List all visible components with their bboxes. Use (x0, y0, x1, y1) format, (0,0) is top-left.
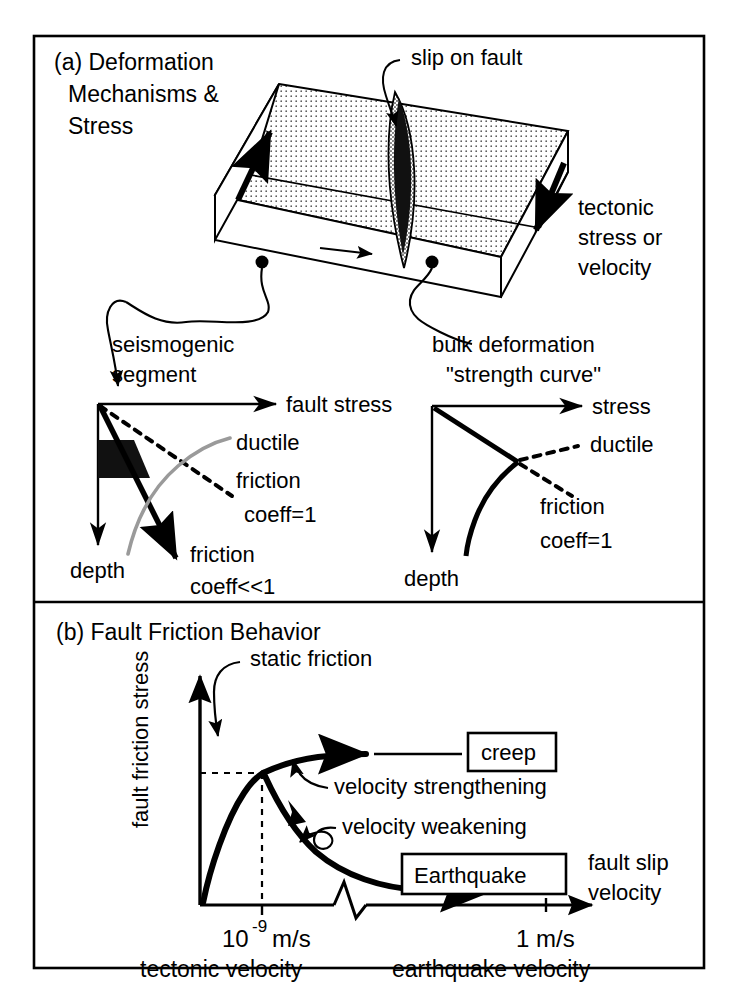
right-graph-ductile-label: ductile (590, 432, 654, 457)
panel-b-x-axis-label-line2: velocity (588, 880, 661, 905)
earthquake-box-label: Earthquake (414, 863, 527, 888)
panel-a-title-line2: Mechanisms & (68, 81, 219, 107)
label-velocity-strengthening: velocity strengthening (334, 774, 547, 799)
right-graph-friction-value: coeff=1 (540, 528, 612, 553)
label-tectonic-line1: tectonic (578, 195, 654, 220)
caption-tectonic-velocity: tectonic velocity (140, 956, 303, 982)
tick-label-exponent: -9 (252, 917, 267, 936)
label-tectonic-line2: stress or (578, 225, 662, 250)
panel-b-x-axis-label-line1: fault slip (588, 850, 669, 875)
label-seismogenic-line2: segment (112, 362, 196, 387)
panel-a-title-line1: (a) Deformation (54, 49, 214, 75)
caption-earthquake-velocity: earthquake velocity (392, 956, 591, 982)
callout-dot-seismogenic (256, 256, 269, 269)
right-graph-x-axis-label: stress (592, 394, 651, 419)
deformation-mechanisms-figure: (a) Deformation Mechanisms & Stress (0, 0, 738, 998)
label-velocity-weakening: velocity weakening (342, 814, 527, 839)
left-graph-x-axis-label: fault stress (286, 392, 392, 417)
tick-label-earthquake-velocity: 1 m/s (516, 925, 575, 952)
label-static-friction: static friction (250, 646, 372, 671)
right-graph-friction-label: friction (540, 494, 605, 519)
left-graph-ductile-label: ductile (236, 430, 300, 455)
panel-b-title: (b) Fault Friction Behavior (56, 619, 321, 645)
panel-a-title-line3: Stress (68, 113, 133, 139)
label-bulk-line2: "strength curve" (446, 362, 601, 387)
panel-b-y-axis-label: fault friction stress (128, 651, 153, 828)
label-seismogenic-line1: seismogenic (112, 332, 234, 357)
tick-label-unit: m/s (272, 925, 311, 952)
figure-container: (a) Deformation Mechanisms & Stress (0, 0, 738, 998)
label-slip-on-fault: slip on fault (411, 45, 522, 70)
left-graph-friction-low-value: coeff<<1 (190, 574, 275, 599)
label-bulk-line1: bulk deformation (432, 332, 595, 357)
left-graph-friction-unity-value: coeff=1 (244, 502, 316, 527)
right-graph-y-axis-label: depth (404, 566, 459, 591)
label-tectonic-line3: velocity (578, 255, 651, 280)
left-graph-y-axis-label: depth (70, 558, 125, 583)
tick-label-base: 10 (222, 925, 249, 952)
creep-box-label: creep (481, 740, 536, 765)
left-graph-friction-low-label: friction (190, 542, 255, 567)
callout-dot-bulk (426, 256, 439, 269)
left-graph-friction-unity-label: friction (236, 468, 301, 493)
